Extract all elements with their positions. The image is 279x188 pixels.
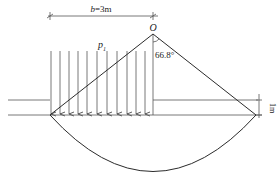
depth-dimension: 1m bbox=[256, 94, 277, 118]
slip-surface-arc bbox=[50, 115, 256, 172]
load-label: p1 bbox=[97, 39, 106, 52]
slip-circle-diagram: b=3m O p1 66.8° 1m bbox=[0, 0, 279, 188]
right-radius-line bbox=[153, 34, 256, 115]
width-label: b=3m bbox=[90, 4, 111, 14]
width-dimension: b=3m bbox=[47, 4, 158, 20]
angle-arc bbox=[153, 39, 159, 42]
distributed-load-arrows bbox=[51, 51, 145, 114]
depth-label: 1m bbox=[268, 103, 277, 114]
angle-label: 66.8° bbox=[155, 50, 175, 60]
apex-label: O bbox=[149, 22, 156, 33]
